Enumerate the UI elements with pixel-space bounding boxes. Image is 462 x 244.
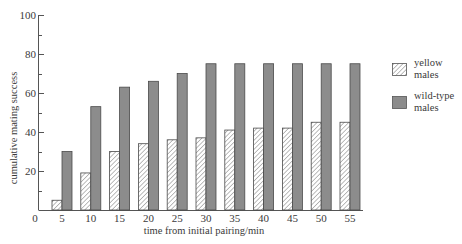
legend-swatch-solid xyxy=(393,97,407,109)
legend-label-line2: males xyxy=(414,102,439,113)
bar-wild-type-males xyxy=(350,64,360,210)
bar-group-5 xyxy=(52,152,72,211)
bar-chart: 20406080100 0 510152025303540455055 cumu… xyxy=(0,0,462,244)
legend-swatch-hatched xyxy=(393,64,407,76)
bar-wild-type-males xyxy=(235,64,245,210)
bar-group-45 xyxy=(282,64,302,210)
legend-item-yellow-males: yellow males xyxy=(393,57,443,80)
y-tick-label: 80 xyxy=(25,48,37,60)
x-tick-label: 10 xyxy=(85,212,97,224)
bar-wild-type-males xyxy=(321,64,331,210)
y-tick-label: 40 xyxy=(25,126,37,138)
bar-wild-type-males xyxy=(148,81,158,210)
bar-yellow-males xyxy=(110,152,120,211)
bar-wild-type-males xyxy=(292,64,302,210)
bar-wild-type-males xyxy=(264,64,274,210)
x-tick-label: 50 xyxy=(316,212,328,224)
bars xyxy=(52,64,360,210)
bar-wild-type-males xyxy=(62,152,72,211)
bar-wild-type-males xyxy=(206,64,216,210)
x-tick-label: 25 xyxy=(172,212,184,224)
bar-group-35 xyxy=(225,64,245,210)
x-tick-label: 15 xyxy=(114,212,126,224)
y-axis-title: cumulative mating success xyxy=(8,72,19,185)
x-tick-labels: 510152025303540455055 xyxy=(59,212,356,224)
bar-wild-type-males xyxy=(91,107,101,210)
y-tick-label: 20 xyxy=(25,165,37,177)
legend-label-line1: wild-type xyxy=(414,90,455,101)
legend-item-wild-type-males: wild-type males xyxy=(393,90,455,113)
x-tick-label: 40 xyxy=(258,212,270,224)
bar-group-55 xyxy=(340,64,360,210)
bar-group-20 xyxy=(138,81,158,210)
x-tick-label: 45 xyxy=(287,212,299,224)
x-tick-label: 35 xyxy=(229,212,241,224)
bar-yellow-males xyxy=(81,173,91,210)
legend-label-line1: yellow xyxy=(414,57,443,68)
legend: yellow males wild-type males xyxy=(393,57,455,113)
bar-group-30 xyxy=(196,64,216,210)
x-axis: 0 510152025303540455055 xyxy=(32,211,363,225)
y-tick-labels: 20406080100 xyxy=(20,9,37,177)
bar-yellow-males xyxy=(340,122,350,210)
bar-group-15 xyxy=(110,87,130,210)
bar-yellow-males xyxy=(282,128,292,210)
x-axis-title: time from initial pairing/min xyxy=(144,225,265,236)
y-tick-label: 60 xyxy=(25,87,37,99)
x-tick-label: 20 xyxy=(143,212,155,224)
bar-wild-type-males xyxy=(120,87,130,210)
y-axis: 20406080100 xyxy=(20,9,45,210)
bar-wild-type-males xyxy=(177,74,187,211)
bar-group-40 xyxy=(254,64,274,210)
bar-group-50 xyxy=(311,64,331,210)
y-tick-label: 100 xyxy=(20,9,37,21)
x-tick-label: 5 xyxy=(59,212,65,224)
bar-yellow-males xyxy=(52,200,62,210)
bar-yellow-males xyxy=(254,128,264,210)
bar-yellow-males xyxy=(138,144,148,210)
x-origin-label: 0 xyxy=(32,212,38,224)
bar-yellow-males xyxy=(167,140,177,210)
bar-yellow-males xyxy=(225,130,235,210)
y-ticks xyxy=(39,16,45,192)
bar-group-25 xyxy=(167,74,187,211)
bar-group-10 xyxy=(81,107,101,210)
bar-yellow-males xyxy=(196,138,206,210)
bar-yellow-males xyxy=(311,122,321,210)
x-tick-label: 30 xyxy=(201,212,213,224)
legend-label-line2: males xyxy=(414,69,439,80)
x-tick-label: 55 xyxy=(345,212,357,224)
